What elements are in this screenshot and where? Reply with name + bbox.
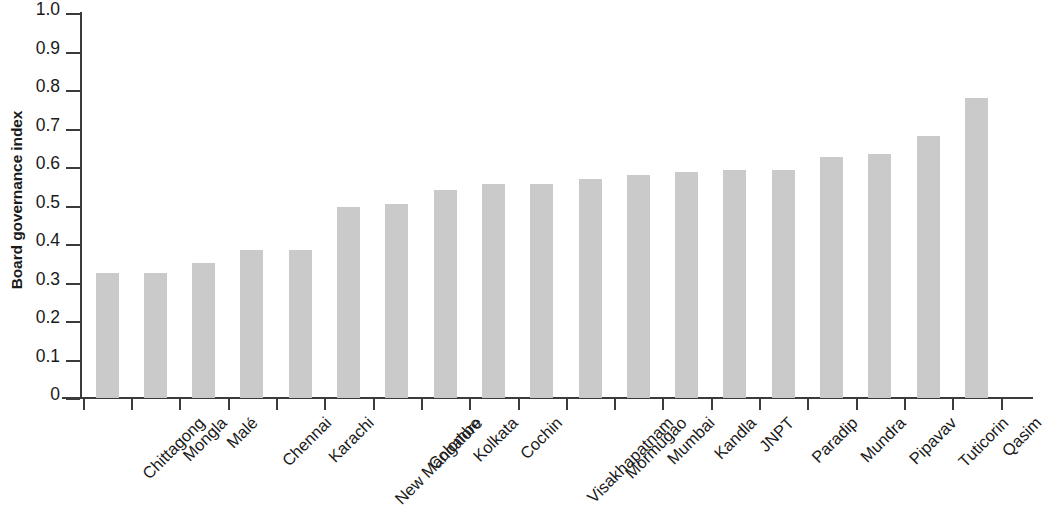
x-axis-tick-mark (518, 399, 520, 410)
x-axis-category-label: Chennai (279, 414, 334, 469)
x-axis-tick-mark (131, 399, 133, 410)
bar (868, 154, 891, 398)
x-axis-category-label: Karachi (326, 414, 377, 465)
x-axis-category-label: Cochin (517, 414, 565, 462)
bar (385, 204, 408, 398)
bar (675, 172, 698, 398)
bar (772, 170, 795, 398)
bar (192, 263, 215, 398)
x-axis-tick-mark (614, 399, 616, 410)
bar (96, 273, 119, 398)
y-axis-tick-mark (66, 398, 80, 400)
y-axis-tick-label: 0.4 (36, 232, 60, 250)
y-axis-tick-mark (66, 52, 80, 54)
x-axis-tick-mark (566, 399, 568, 410)
x-axis-category-label: Pipavav (906, 414, 959, 467)
bar (820, 157, 843, 398)
x-axis-tick-mark (759, 399, 761, 410)
bar (723, 170, 746, 398)
x-axis-tick-mark (469, 399, 471, 410)
y-axis-tick-label: 0 (50, 386, 60, 404)
bar (337, 207, 360, 398)
y-axis-title-label: Board governance index (8, 111, 26, 290)
y-axis-tick-mark (66, 90, 80, 92)
y-axis-tick-mark (66, 129, 80, 131)
y-axis-tick-mark (66, 283, 80, 285)
bar (627, 175, 650, 398)
y-axis-title: Board governance index (0, 0, 34, 400)
bar (289, 250, 312, 398)
bar (579, 179, 602, 398)
y-axis-tick-mark (66, 167, 80, 169)
y-axis-tick-mark (66, 360, 80, 362)
x-axis-category-label: Kandla (711, 414, 759, 462)
y-axis-tick-mark (66, 206, 80, 208)
x-axis-category-label: Paradip (809, 414, 861, 466)
bar (240, 250, 263, 398)
y-axis-tick-mark (66, 13, 80, 15)
y-axis-tick-label: 0.2 (36, 309, 60, 327)
x-axis-tick-mark (276, 399, 278, 410)
x-axis-tick-mark (324, 399, 326, 410)
bar (917, 136, 940, 398)
bar (965, 98, 988, 398)
y-axis-tick-mark (66, 321, 80, 323)
y-axis-tick-label: 0.3 (36, 271, 60, 289)
x-axis-category-label: JNPT (756, 414, 797, 455)
x-axis-tick-mark (904, 399, 906, 410)
x-axis-category-label: Mundra (857, 414, 908, 465)
x-axis-tick-mark (373, 399, 375, 410)
bar (482, 184, 505, 398)
x-axis-category-label: Malé (223, 414, 260, 451)
y-axis-tick-label: 0.9 (36, 40, 60, 58)
y-axis-tick-label: 0.8 (36, 78, 60, 96)
x-axis-tick-mark (952, 399, 954, 410)
x-axis-tick-mark (228, 399, 230, 410)
bar (530, 184, 553, 398)
x-axis-tick-mark (83, 399, 85, 410)
x-axis-tick-mark (856, 399, 858, 410)
x-axis-tick-mark (179, 399, 181, 410)
y-axis-tick-label: 1.0 (36, 1, 60, 19)
bar (144, 273, 167, 398)
y-axis-tick-label: 0.5 (36, 194, 60, 212)
y-axis-tick-label: 0.7 (36, 117, 60, 135)
x-axis-tick-mark (662, 399, 664, 410)
x-axis-tick-mark (807, 399, 809, 410)
x-axis-category-label: Colombo (425, 414, 483, 472)
y-axis-tick-label: 0.6 (36, 155, 60, 173)
x-axis-tick-mark (421, 399, 423, 410)
plot-area (81, 13, 1033, 398)
bar (434, 190, 457, 398)
x-axis-tick-mark (711, 399, 713, 410)
x-axis-tick-mark (1001, 399, 1003, 410)
y-axis-tick-mark (66, 244, 80, 246)
y-axis-tick-label: 0.1 (36, 348, 60, 366)
